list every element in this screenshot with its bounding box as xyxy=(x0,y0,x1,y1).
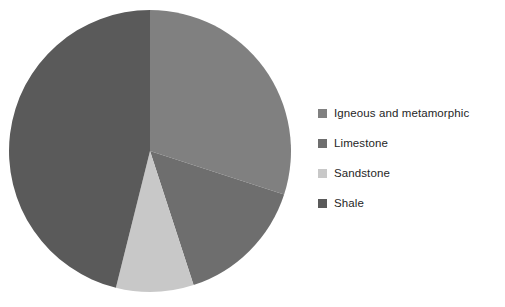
legend-item-label: Sandstone xyxy=(334,167,390,180)
legend-item-label: Shale xyxy=(334,197,364,210)
legend-item-limestone[interactable]: Limestone xyxy=(318,128,503,158)
pie-chart-svg xyxy=(0,0,310,307)
legend-item-label: Igneous and metamorphic xyxy=(334,107,469,120)
chart-screenshot: Igneous and metamorphic Limestone Sandst… xyxy=(0,0,505,307)
pie-slice-group xyxy=(9,10,291,292)
square-swatch-icon xyxy=(318,139,327,148)
legend-item-shale[interactable]: Shale xyxy=(318,188,503,218)
legend-item-label: Limestone xyxy=(334,137,388,150)
square-swatch-icon xyxy=(318,109,327,118)
square-swatch-icon xyxy=(318,169,327,178)
square-swatch-icon xyxy=(318,199,327,208)
chart-legend: Igneous and metamorphic Limestone Sandst… xyxy=(318,98,503,218)
legend-item-igneous-and-metamorphic[interactable]: Igneous and metamorphic xyxy=(318,98,503,128)
pie-chart-area xyxy=(0,0,310,307)
legend-item-sandstone[interactable]: Sandstone xyxy=(318,158,503,188)
